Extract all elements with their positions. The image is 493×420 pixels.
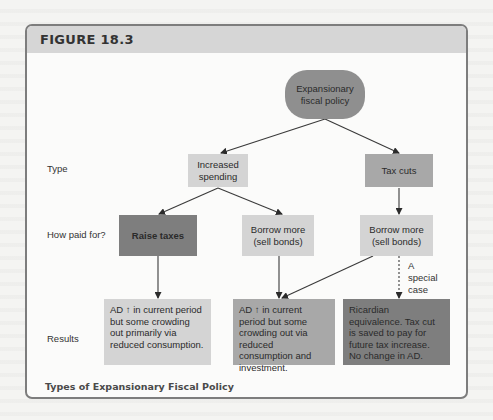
- node-tax-cuts: Tax cuts: [365, 154, 433, 187]
- figure-frame: FIGURE 18.3 Expansionary fiscal policy T…: [25, 24, 468, 399]
- result-raise-taxes: AD ↑ in current period but some crowding…: [104, 299, 211, 365]
- node-raise-taxes: Raise taxes: [119, 215, 197, 256]
- result-borrow-spending: AD ↑ in current period but some crowding…: [233, 299, 335, 365]
- node-expansionary-fiscal-policy: Expansionary fiscal policy: [285, 70, 365, 119]
- node-borrow-more-spending: Borrow more (sell bonds): [242, 215, 314, 256]
- row-label-results: Results: [47, 333, 79, 344]
- special-case-note: A special case: [408, 260, 444, 296]
- result-ricardian-equivalence: Ricardian equivalence. Tax cut is saved …: [343, 299, 450, 365]
- row-label-type: Type: [47, 163, 68, 174]
- node-borrow-more-tax-cuts: Borrow more (sell bonds): [360, 215, 433, 256]
- row-label-how-paid: How paid for?: [47, 229, 106, 240]
- node-increased-spending: Increased spending: [188, 154, 248, 187]
- figure-caption: Types of Expansionary Fiscal Policy: [45, 381, 234, 392]
